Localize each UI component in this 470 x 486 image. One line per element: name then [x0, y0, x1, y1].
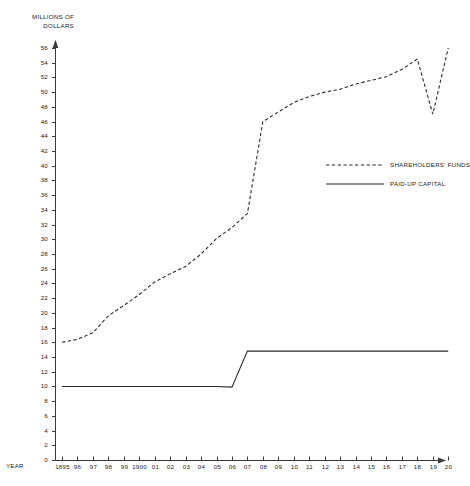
y-tick-label: 8: [26, 397, 48, 404]
y-tick-label: 26: [26, 265, 48, 272]
legend: [326, 165, 384, 184]
y-tick-label: 54: [26, 59, 48, 66]
y-tick-label: 34: [26, 206, 48, 213]
y-tick-label: 28: [26, 250, 48, 257]
x-tick-label: 20: [437, 463, 461, 470]
y-tick-label: 22: [26, 294, 48, 301]
x-axis-title: YEAR: [6, 462, 24, 469]
y-tick-label: 2: [26, 441, 48, 448]
y-axis-title-line2: DOLLARS: [43, 22, 74, 29]
y-tick-label: 6: [26, 412, 48, 419]
data-series-group: [62, 48, 448, 387]
y-axis-title: MILLIONS OFDOLLARS: [12, 12, 74, 30]
y-tick-label: 38: [26, 176, 48, 183]
y-axis-arrow: [53, 40, 59, 48]
y-axis: [52, 40, 58, 461]
y-tick-label: 48: [26, 103, 48, 110]
y-tick-label: 56: [26, 44, 48, 51]
y-tick-label: 40: [26, 162, 48, 169]
y-tick-label: 50: [26, 88, 48, 95]
y-tick-label: 10: [26, 382, 48, 389]
y-tick-label: 30: [26, 235, 48, 242]
y-tick-label: 0: [26, 456, 48, 463]
legend-label-2: PAID-UP CAPITAL: [390, 180, 445, 187]
y-tick-label: 12: [26, 368, 48, 375]
y-tick-label: 46: [26, 118, 48, 125]
y-axis-title-line1: MILLIONS OF: [32, 13, 74, 20]
series-line-2: [62, 351, 448, 387]
y-tick-label: 32: [26, 221, 48, 228]
y-tick-label: 36: [26, 191, 48, 198]
y-tick-label: 20: [26, 309, 48, 316]
y-tick-label: 52: [26, 73, 48, 80]
y-tick-label: 18: [26, 324, 48, 331]
y-tick-label: 4: [26, 427, 48, 434]
y-tick-label: 42: [26, 147, 48, 154]
y-tick-label: 16: [26, 338, 48, 345]
series-line-1: [62, 48, 448, 342]
y-tick-label: 44: [26, 132, 48, 139]
y-tick-label: 24: [26, 279, 48, 286]
legend-label-1: SHAREHOLDERS' FUNDS: [390, 161, 470, 168]
y-tick-label: 14: [26, 353, 48, 360]
